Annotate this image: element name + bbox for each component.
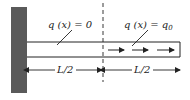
wall-support — [11, 7, 27, 93]
dimension-right: L/2 — [104, 64, 180, 75]
left-length-label: L/2 — [56, 64, 73, 75]
right-label-leader — [132, 30, 148, 46]
left-label-leader — [57, 30, 72, 45]
right-load-label: q (x) = q0 — [124, 19, 173, 32]
right-length-label: L/2 — [133, 64, 150, 75]
left-load-label: q (x) = 0 — [48, 19, 93, 30]
dimension-left: L/2 — [28, 64, 102, 75]
cantilever-diagram: q (x) = 0 q (x) = q0 L/2 L/2 — [0, 0, 190, 100]
